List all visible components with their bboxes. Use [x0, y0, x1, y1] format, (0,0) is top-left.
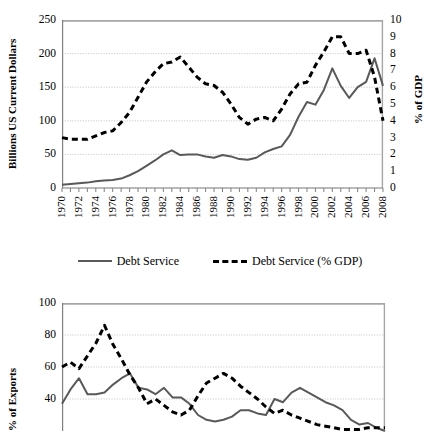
- chart1-x-tick: 1980: [140, 196, 151, 218]
- chart1-y2-tick: 0: [390, 182, 412, 194]
- legend-label-debt-service-gdp: Debt Service (% GDP): [252, 254, 362, 269]
- chart1-y2-tick: 10: [390, 14, 412, 26]
- chart2-y-tick: 60: [20, 361, 56, 373]
- series-line-1: [62, 373, 385, 431]
- chart1-x-tick: 2006: [360, 196, 371, 218]
- chart1-x-tick: 1990: [225, 196, 236, 218]
- chart1-x-tick: 2000: [309, 196, 320, 218]
- chart1-y-tick: 50: [22, 148, 56, 160]
- legend-item-debt-service: Debt Service: [78, 254, 179, 269]
- chart1-y2-tick: 2: [390, 148, 412, 160]
- series-line-2: [62, 37, 383, 139]
- chart2-plot-area: [62, 303, 385, 431]
- chart1-y-tick: 150: [22, 81, 56, 93]
- chart1-y2-tick: 3: [390, 132, 412, 144]
- chart1-x-tick: 2002: [326, 196, 337, 218]
- chart2-y-tick: 80: [20, 329, 56, 341]
- chart1-plot-area: [62, 20, 383, 188]
- chart1-x-tick: 1998: [293, 196, 304, 218]
- chart1-x-tick: 1986: [191, 196, 202, 218]
- chart2-y-axis-title: % of Exports: [6, 340, 18, 436]
- chart1-y-tick: 200: [22, 48, 56, 60]
- chart2-y-tick: 40: [20, 393, 56, 405]
- chart1-y2-tick: 8: [390, 48, 412, 60]
- legend-label-debt-service: Debt Service: [117, 254, 179, 269]
- chart1-x-tick: 2004: [343, 196, 354, 218]
- chart2-svg: [62, 303, 385, 431]
- chart1-svg: [62, 20, 383, 188]
- chart1-y2-axis-title: % of GDP: [412, 45, 424, 155]
- chart1-y2-tick: 6: [390, 81, 412, 93]
- chart1-y-tick: 100: [22, 115, 56, 127]
- legend-item-debt-service-gdp: Debt Service (% GDP): [213, 254, 362, 269]
- chart1-y-tick: 250: [22, 14, 56, 26]
- series-line-1: [62, 58, 383, 184]
- legend-solid-line-icon: [78, 260, 112, 262]
- chart1-y-tick: 0: [22, 182, 56, 194]
- chart1-y2-tick: 4: [390, 115, 412, 127]
- series-line-2: [62, 325, 385, 429]
- chart1-x-tick: 1996: [276, 196, 287, 218]
- legend-dashed-line-icon: [213, 260, 247, 263]
- chart1-x-tick: 1974: [90, 196, 101, 218]
- chart1-x-tick: 2008: [377, 196, 388, 218]
- exports-chart: % of Exports 406080100: [0, 288, 440, 430]
- debt-service-chart: Billions US Current Dollars % of GDP 050…: [0, 0, 440, 245]
- chart1-x-tick: 1984: [174, 196, 185, 218]
- chart1-x-tick: 1994: [259, 196, 270, 218]
- chart1-legend: Debt Service Debt Service (% GDP): [0, 250, 440, 272]
- chart1-y-axis-title: Billions US Current Dollars: [6, 14, 18, 194]
- chart1-y2-tick: 1: [390, 165, 412, 177]
- chart2-y-tick: 100: [20, 297, 56, 309]
- chart1-y2-tick: 7: [390, 64, 412, 76]
- chart1-x-tick: 1972: [73, 196, 84, 218]
- chart1-x-tick: 1970: [56, 196, 67, 218]
- chart1-x-tick: 1976: [107, 196, 118, 218]
- chart1-y2-tick: 5: [390, 98, 412, 110]
- chart1-x-tick: 1992: [242, 196, 253, 218]
- chart1-x-tick: 1988: [208, 196, 219, 218]
- chart1-y2-tick: 9: [390, 31, 412, 43]
- chart1-x-tick: 1978: [124, 196, 135, 218]
- chart1-x-tick: 1982: [157, 196, 168, 218]
